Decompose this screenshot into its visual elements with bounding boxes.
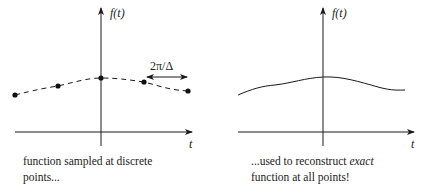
reconstructed-panel: f(t) t: [238, 6, 415, 151]
caption-emphasis: exact: [349, 155, 373, 167]
sampled-panel: f(t) t 2π/Δ: [12, 6, 193, 151]
caption-line: function sampled at discrete: [23, 153, 152, 169]
sample-dot: [185, 88, 190, 93]
y-axis-label: f(t): [110, 6, 125, 20]
spacing-label: 2π/Δ: [150, 59, 173, 73]
caption-line: function at all points!: [251, 169, 374, 185]
caption-line: ...used to reconstruct exact: [251, 153, 374, 169]
solid-curve: [238, 77, 405, 95]
x-axis-label: t: [411, 137, 415, 151]
caption-line: points...: [23, 169, 152, 185]
sample-dot: [12, 92, 17, 97]
sample-dot: [98, 75, 103, 80]
sample-dot: [141, 79, 146, 84]
dashed-curve: [15, 78, 192, 95]
y-axis-label: f(t): [332, 6, 347, 20]
sample-dot: [55, 83, 60, 88]
x-axis-label: t: [189, 137, 193, 151]
caption-text: ...used to reconstruct: [251, 155, 349, 167]
sampled-caption: function sampled at discrete points...: [23, 153, 152, 185]
reconstructed-caption: ...used to reconstruct exact function at…: [251, 153, 374, 185]
